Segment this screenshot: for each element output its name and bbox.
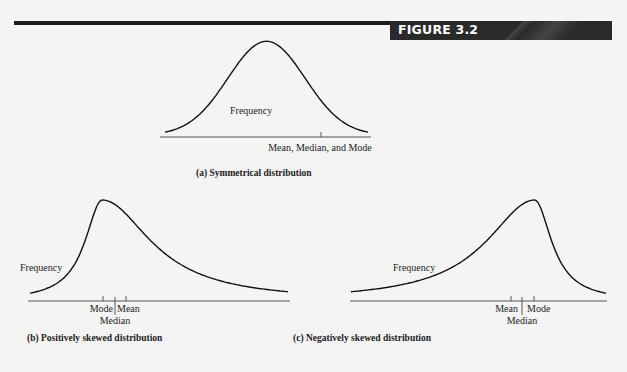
- ylabel-c: Frequency: [393, 262, 435, 273]
- curve-positively-skewed: [30, 200, 288, 293]
- distribution-charts: Frequency Mean, Median, and Mode (a) Sym…: [0, 0, 627, 372]
- caption-c: (c) Negatively skewed distribution: [293, 333, 432, 344]
- label-mean-b: Mean: [117, 303, 140, 314]
- ylabel-a: Frequency: [230, 105, 272, 116]
- label-mode-c: Mode: [527, 303, 551, 314]
- chart-symmetrical: Frequency Mean, Median, and Mode (a) Sym…: [160, 41, 372, 179]
- label-median-c: Median: [507, 315, 538, 326]
- label-mean-c: Mean: [495, 303, 518, 314]
- caption-a: (a) Symmetrical distribution: [196, 168, 312, 179]
- marker-label-a: Mean, Median, and Mode: [268, 142, 372, 153]
- ylabel-b: Frequency: [20, 262, 62, 273]
- label-mode-b: Mode: [90, 303, 114, 314]
- curve-negatively-skewed: [351, 200, 606, 293]
- caption-b: (b) Positively skewed distribution: [27, 333, 163, 344]
- chart-negatively-skewed: Mean Median Mode Frequency (c) Negativel…: [293, 200, 607, 344]
- curve-symmetrical: [165, 41, 368, 132]
- chart-positively-skewed: Mode Median Mean Frequency (b) Positivel…: [20, 200, 290, 344]
- label-median-b: Median: [100, 315, 131, 326]
